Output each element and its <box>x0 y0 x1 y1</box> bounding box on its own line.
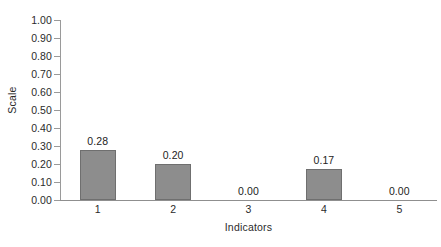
y-axis-tick-label: 0.50 <box>12 104 52 116</box>
x-axis-tick-label: 5 <box>379 203 419 215</box>
y-axis-tick-label-text: 0.90 <box>18 32 52 44</box>
y-axis-tick-label-text: 1.00 <box>18 14 52 26</box>
y-axis-tick-label-text: 0.30 <box>18 140 52 152</box>
bar-value-label: 0.28 <box>68 135 128 147</box>
x-axis-tick-label: 2 <box>153 203 193 215</box>
y-axis-tick-label: 0.90 <box>12 32 52 44</box>
y-axis-tick-label-text: 0.10 <box>18 176 52 188</box>
y-axis-tick-label: 0.80 <box>12 50 52 62</box>
y-axis-tick-label: 0.20 <box>12 158 52 170</box>
y-axis-tick-label-text: 0.80 <box>18 50 52 62</box>
y-axis-title: Scale <box>6 70 18 130</box>
bar-value-label: 0.20 <box>143 149 203 161</box>
y-axis-tick-label-text: 0.40 <box>18 122 52 134</box>
y-axis-tick <box>54 200 60 201</box>
x-axis-tick-label: 3 <box>229 203 269 215</box>
y-axis-tick-label: 0.70 <box>12 68 52 80</box>
bar[interactable] <box>155 164 191 200</box>
bar[interactable] <box>80 150 116 200</box>
y-axis-tick-label: 0.00 <box>12 194 52 206</box>
y-axis-tick-label-text: 0.50 <box>18 104 52 116</box>
y-axis-tick-label: 0.40 <box>12 122 52 134</box>
x-axis-tick-label: 1 <box>78 203 118 215</box>
bar[interactable] <box>306 169 342 200</box>
plot-area <box>60 20 437 200</box>
y-axis-tick-label-text: 0.00 <box>18 194 52 206</box>
y-axis-tick-label-text: 0.70 <box>18 68 52 80</box>
bar-value-label: 0.00 <box>219 185 279 197</box>
y-axis-tick-label: 0.60 <box>12 86 52 98</box>
x-axis-line <box>60 200 437 201</box>
y-axis-tick-label: 0.10 <box>12 176 52 188</box>
x-axis-title: Indicators <box>60 221 437 233</box>
y-axis-tick-label-text: 0.60 <box>18 86 52 98</box>
bar-value-label: 0.00 <box>369 185 429 197</box>
y-axis-tick-label: 0.30 <box>12 140 52 152</box>
x-axis-tick-label: 4 <box>304 203 344 215</box>
bar-value-label: 0.17 <box>294 154 354 166</box>
bar-chart-figure: 1.000.900.800.700.600.500.400.300.200.10… <box>0 0 441 247</box>
y-axis-tick-label: 1.00 <box>12 14 52 26</box>
y-axis-tick-label-text: 0.20 <box>18 158 52 170</box>
